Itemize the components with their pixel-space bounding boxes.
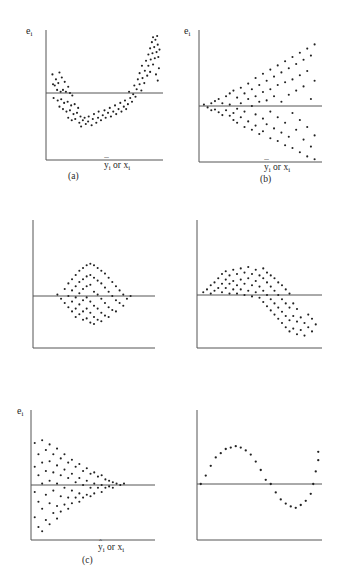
data-point	[149, 71, 151, 73]
data-point	[89, 274, 91, 276]
data-point	[97, 280, 99, 282]
data-point	[240, 102, 242, 104]
data-point	[71, 310, 73, 312]
data-point	[45, 470, 47, 472]
data-point	[100, 119, 102, 121]
data-point	[89, 322, 91, 324]
data-point	[117, 108, 119, 110]
data-point	[45, 519, 47, 521]
data-point	[128, 91, 130, 93]
data-point	[281, 322, 283, 324]
data-point	[78, 292, 80, 294]
data-point	[285, 315, 287, 317]
data-point	[71, 119, 73, 121]
axis-frame-f	[197, 410, 322, 540]
data-point	[292, 328, 294, 330]
data-point	[89, 263, 91, 265]
data-point	[151, 41, 153, 43]
data-point	[310, 146, 312, 148]
data-point	[108, 480, 110, 482]
data-point	[258, 133, 260, 135]
data-point	[76, 112, 78, 114]
panel-b-ylabel: ei	[184, 26, 190, 38]
data-point	[78, 492, 80, 494]
data-point	[82, 497, 84, 499]
data-point	[89, 312, 91, 314]
data-point	[217, 287, 219, 289]
data-point	[213, 281, 215, 283]
data-point	[236, 108, 238, 110]
data-point	[80, 125, 82, 127]
data-point	[157, 80, 159, 82]
data-point	[260, 469, 262, 471]
data-point	[236, 97, 238, 99]
panel-b-letter: (b)	[260, 175, 271, 185]
data-point	[153, 46, 155, 48]
data-point	[273, 76, 275, 78]
data-point	[230, 446, 232, 448]
data-point	[251, 284, 253, 286]
data-point	[98, 111, 100, 113]
data-point	[277, 84, 279, 86]
data-point	[150, 58, 152, 60]
data-point	[93, 316, 95, 318]
data-point	[149, 47, 151, 49]
panel-b-xlabel-var-group: ¯y	[264, 163, 269, 173]
data-point	[63, 102, 65, 104]
data-point	[112, 111, 114, 113]
data-point	[78, 501, 80, 503]
data-point	[215, 456, 217, 458]
data-point	[285, 302, 287, 304]
data-point	[247, 120, 249, 122]
data-point	[51, 73, 53, 75]
data-point	[147, 65, 149, 67]
data-point	[129, 97, 131, 99]
data-point	[112, 487, 114, 489]
data-point	[243, 283, 245, 285]
panel-a-letter: (a)	[68, 172, 79, 182]
data-point	[115, 299, 117, 301]
data-point	[67, 282, 69, 284]
data-point	[251, 295, 253, 297]
data-point	[152, 63, 154, 65]
data-point	[104, 315, 106, 317]
data-point	[288, 67, 290, 69]
data-point	[217, 277, 219, 279]
data-point	[97, 308, 99, 310]
data-point	[243, 272, 245, 274]
data-point	[71, 289, 73, 291]
data-point	[70, 104, 72, 106]
panel-b-axes	[199, 30, 322, 162]
data-point	[93, 483, 95, 485]
data-point	[52, 490, 54, 492]
data-point	[69, 109, 71, 111]
data-point	[93, 323, 95, 325]
data-point	[292, 315, 294, 317]
data-point	[93, 305, 95, 307]
data-point	[269, 69, 271, 71]
data-point	[288, 136, 290, 138]
data-point	[52, 512, 54, 514]
panel-e-axes	[31, 410, 155, 540]
panel-b-xlabel-sub: i	[269, 166, 271, 174]
panel-d-plot	[170, 190, 339, 380]
data-point	[104, 287, 106, 289]
data-point	[97, 487, 99, 489]
data-point	[273, 277, 275, 279]
data-point	[306, 48, 308, 50]
data-point	[300, 504, 302, 506]
data-point	[37, 501, 39, 503]
data-point	[62, 108, 64, 110]
data-point	[288, 307, 290, 309]
data-point	[157, 56, 159, 58]
data-point	[285, 502, 287, 504]
data-point	[64, 81, 66, 83]
data-point	[157, 44, 159, 46]
data-point	[296, 321, 298, 323]
data-point	[245, 449, 247, 451]
data-point	[89, 495, 91, 497]
data-point	[87, 120, 89, 122]
data-point	[82, 267, 84, 269]
data-point	[269, 88, 271, 90]
data-point	[133, 85, 135, 87]
